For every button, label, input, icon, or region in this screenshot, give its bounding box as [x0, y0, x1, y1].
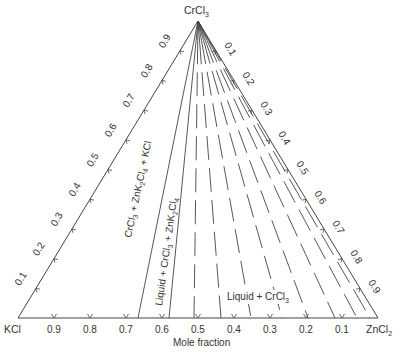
- tick-mark: [340, 314, 345, 318]
- tick-mark: [284, 170, 288, 174]
- tie-line-solid: [169, 21, 198, 318]
- tick-mark: [320, 229, 324, 233]
- tick-mark: [196, 314, 201, 318]
- right-tick-label: 0.1: [222, 40, 239, 58]
- tick-mark: [90, 199, 94, 203]
- tick-mark: [88, 314, 93, 318]
- tick-mark: [248, 110, 252, 114]
- tie-line-dashed: [194, 40, 198, 318]
- region-label-crcl3-znk2cl4-kcl: CrCl3 + ZnK2Cl4 + KCl: [122, 140, 155, 239]
- bottom-tick-label: 0.2: [299, 324, 313, 335]
- tick-mark: [108, 170, 112, 174]
- region-label-liquid-crcl3-znk2cl4: Liquid + CrCl3 + ZnK2Cl4: [153, 197, 181, 307]
- left-tick-label: 0.1: [12, 269, 29, 287]
- right-tick-label: 0.6: [312, 189, 329, 207]
- tick-mark: [180, 51, 184, 55]
- right-tick-label: 0.9: [366, 278, 383, 296]
- region-label-liquid-crcl3: Liquid + CrCl3: [227, 291, 289, 304]
- vertex-label-zncl2: ZnCl2: [366, 323, 392, 337]
- vertex-label-kcl: KCl: [4, 323, 21, 335]
- left-tick-label: 0.5: [84, 151, 101, 169]
- bottom-tick-label: 0.3: [263, 324, 277, 335]
- tick-mark: [338, 259, 342, 263]
- axis-title-mole-fraction: Mole fraction: [173, 337, 230, 348]
- tick-mark: [54, 259, 58, 263]
- tie-line-dashed: [205, 40, 308, 318]
- axis-ticks: [36, 51, 360, 318]
- right-tick-label: 0.7: [330, 218, 347, 236]
- bottom-tick-label: 0.6: [155, 324, 169, 335]
- bottom-tick-label: 0.5: [191, 324, 205, 335]
- bottom-tick-label: 0.4: [227, 324, 241, 335]
- tick-mark: [144, 110, 148, 114]
- left-tick-label: 0.2: [30, 240, 47, 258]
- tick-mark: [52, 314, 57, 318]
- tie-line-dashed: [208, 40, 357, 318]
- tie-lines: [138, 21, 370, 318]
- tick-mark: [124, 314, 129, 318]
- left-tick-label: 0.6: [102, 121, 119, 139]
- tie-line-dashed: [199, 40, 221, 318]
- left-tick-label: 0.9: [156, 32, 173, 50]
- left-tick-label: 0.7: [120, 91, 137, 109]
- right-tick-label: 0.2: [240, 70, 257, 88]
- left-tick-label: 0.8: [138, 61, 155, 79]
- bottom-tick-label: 0.7: [119, 324, 133, 335]
- tick-mark: [36, 288, 40, 292]
- tick-mark: [268, 314, 273, 318]
- tick-mark: [72, 229, 76, 233]
- left-tick-label: 0.4: [66, 180, 83, 198]
- tick-mark: [162, 80, 166, 84]
- tick-mark: [160, 314, 165, 318]
- axis-tick-labels: 0.90.80.70.60.50.40.30.20.10.10.20.30.40…: [12, 32, 383, 335]
- bottom-tick-label: 0.9: [47, 324, 61, 335]
- triangle-outline: [18, 21, 378, 318]
- ternary-phase-diagram: 0.90.80.70.60.50.40.30.20.10.10.20.30.40…: [0, 0, 402, 352]
- right-tick-label: 0.8: [348, 248, 365, 266]
- right-tick-label: 0.4: [276, 129, 293, 147]
- vertex-label-crcl3: CrCl3: [184, 4, 209, 18]
- right-tick-label: 0.3: [258, 99, 275, 117]
- bottom-tick-label: 0.8: [83, 324, 97, 335]
- right-tick-label: 0.5: [294, 159, 311, 177]
- tie-line-dashed: [203, 40, 282, 318]
- tick-mark: [232, 314, 237, 318]
- bottom-tick-label: 0.1: [335, 324, 349, 335]
- left-tick-label: 0.3: [48, 210, 65, 228]
- tick-mark: [126, 140, 130, 144]
- tick-mark: [302, 199, 306, 203]
- tick-mark: [356, 288, 360, 292]
